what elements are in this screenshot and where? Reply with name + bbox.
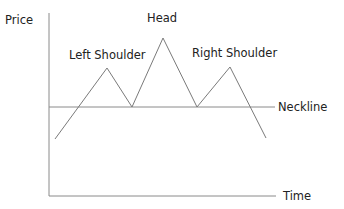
head-label: Head: [147, 11, 177, 25]
x-axis-label: Time: [282, 189, 311, 203]
head-and-shoulders-diagram: Price Time Head Left Shoulder Right Shou…: [0, 0, 344, 209]
y-axis-label: Price: [5, 13, 33, 27]
left-shoulder-label: Left Shoulder: [69, 48, 146, 62]
right-shoulder-label: Right Shoulder: [192, 46, 277, 60]
neckline-label: Neckline: [278, 100, 327, 114]
